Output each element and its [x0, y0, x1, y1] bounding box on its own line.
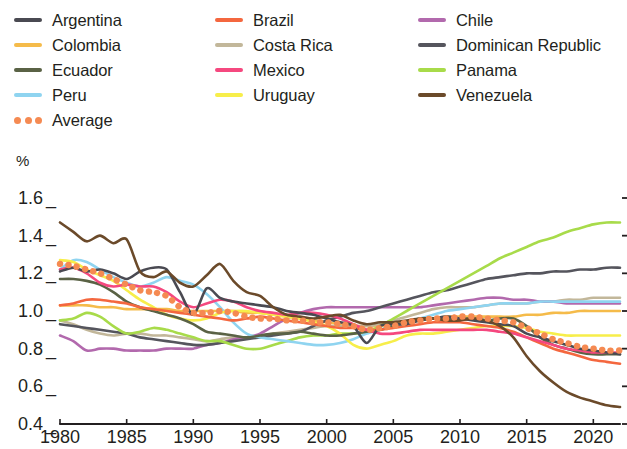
x-axis-tick-label: 1985 [107, 428, 147, 446]
x-axis-tick-label: 2010 [440, 428, 480, 446]
x-axis-tick-label: 2015 [507, 428, 547, 446]
chart-plot-area [0, 0, 627, 449]
x-axis-tick-labels: 198019851990199520002005201020152020 [0, 424, 627, 449]
x-axis-tick-label: 1990 [173, 428, 213, 446]
x-axis-tick-label: 2020 [573, 428, 613, 446]
x-axis-tick-label: 1995 [240, 428, 280, 446]
x-axis-tick-label: 1980 [40, 428, 80, 446]
x-axis-tick-label: 2000 [307, 428, 347, 446]
x-axis-tick-label: 2005 [373, 428, 413, 446]
chart-figure: ArgentinaBrazilChileColombiaCosta RicaDo… [0, 0, 627, 449]
